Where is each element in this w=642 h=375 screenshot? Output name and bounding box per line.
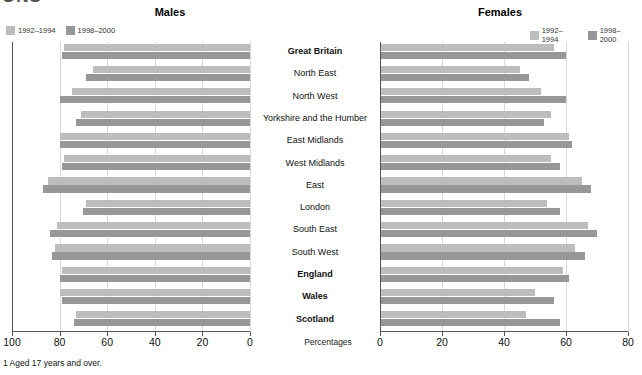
category-label: London bbox=[250, 202, 380, 213]
bar-series-b bbox=[83, 208, 250, 215]
bar-row bbox=[12, 287, 250, 309]
bar-series-b bbox=[380, 96, 566, 103]
legend-swatch-icon-b bbox=[588, 31, 597, 40]
bar-row bbox=[380, 87, 628, 109]
organisation-logo: ONS bbox=[2, 0, 64, 4]
logo-text: ONS bbox=[2, 0, 64, 4]
legend-entry-1992-1994-males: 1992–1994 bbox=[6, 26, 56, 35]
bar-series-a bbox=[380, 244, 575, 251]
bar-series-b bbox=[380, 252, 585, 259]
bar-series-a bbox=[48, 177, 250, 184]
tick-label: 80 bbox=[45, 336, 75, 348]
category-label-column: Great BritainNorth EastNorth WestYorkshi… bbox=[250, 42, 380, 332]
category-label: South East bbox=[250, 224, 380, 235]
legend-label-b: 1998–2000 bbox=[78, 26, 116, 35]
bar-series-b bbox=[60, 141, 250, 148]
category-label: West Midlands bbox=[250, 158, 380, 169]
bar-series-b bbox=[76, 119, 250, 126]
bar-series-a bbox=[62, 267, 250, 274]
tick-label: 80 bbox=[613, 336, 642, 348]
males-legend: 1992–1994 1998–2000 bbox=[6, 26, 121, 35]
tick-label: 0 bbox=[235, 336, 265, 348]
bar-series-a bbox=[55, 244, 250, 251]
bar-series-a bbox=[380, 311, 526, 318]
bar-series-a bbox=[380, 200, 547, 207]
bar-series-a bbox=[380, 289, 535, 296]
bar-row bbox=[380, 220, 628, 242]
tick-label: 40 bbox=[489, 336, 519, 348]
bar-row bbox=[12, 198, 250, 220]
category-label: North West bbox=[250, 91, 380, 102]
bar-series-b bbox=[380, 319, 560, 326]
category-label: Scotland bbox=[250, 314, 380, 325]
bar-series-a bbox=[76, 311, 250, 318]
bar-series-a bbox=[380, 44, 554, 51]
bar-series-b bbox=[62, 297, 250, 304]
bar-row bbox=[12, 87, 250, 109]
females-axis-left-edge bbox=[380, 42, 381, 332]
category-label: Great Britain bbox=[250, 46, 380, 57]
bar-series-b bbox=[60, 275, 250, 282]
bar-series-b bbox=[380, 208, 560, 215]
legend-entry-1998-2000-males: 1998–2000 bbox=[66, 26, 116, 35]
chart-page: ONS Males Females 1992–1994 1998–2000 19… bbox=[0, 0, 642, 375]
category-label: East Midlands bbox=[250, 135, 380, 146]
bar-row bbox=[12, 131, 250, 153]
bar-series-b bbox=[380, 74, 529, 81]
bar-series-b bbox=[60, 96, 250, 103]
bar-row bbox=[380, 154, 628, 176]
bar-row bbox=[380, 176, 628, 198]
tick-label: 20 bbox=[427, 336, 457, 348]
bar-series-a bbox=[64, 44, 250, 51]
bar-series-a bbox=[72, 88, 251, 95]
category-label: South West bbox=[250, 247, 380, 258]
bar-row bbox=[380, 310, 628, 332]
bar-series-a bbox=[60, 289, 250, 296]
tick-label: 60 bbox=[92, 336, 122, 348]
tick-label: 60 bbox=[551, 336, 581, 348]
males-axis-left-edge bbox=[12, 42, 13, 332]
bar-series-a bbox=[380, 222, 588, 229]
bar-series-a bbox=[380, 133, 569, 140]
bar-row bbox=[380, 198, 628, 220]
category-label: North East bbox=[250, 68, 380, 79]
bar-series-a bbox=[380, 111, 551, 118]
tick-label: 100 bbox=[0, 336, 27, 348]
bar-series-b bbox=[380, 163, 560, 170]
category-label: Yorkshire and the Humber bbox=[250, 113, 380, 124]
bar-series-b bbox=[380, 185, 591, 192]
males-bar-rows bbox=[12, 42, 250, 332]
bar-series-a bbox=[81, 111, 250, 118]
females-panel-title: Females bbox=[440, 6, 560, 18]
bar-series-b bbox=[380, 141, 572, 148]
bar-series-a bbox=[86, 200, 250, 207]
gridline bbox=[628, 42, 629, 332]
bar-series-b bbox=[380, 297, 554, 304]
bar-series-a bbox=[380, 66, 520, 73]
footnote: 1 Aged 17 years and over. bbox=[3, 358, 102, 368]
bar-series-a bbox=[380, 267, 563, 274]
bar-row bbox=[380, 64, 628, 86]
bar-row bbox=[12, 310, 250, 332]
bar-row bbox=[12, 265, 250, 287]
legend-swatch-icon-b bbox=[66, 26, 75, 35]
males-tick-labels: 100806040200 bbox=[0, 336, 262, 350]
axis-caption: Percentages bbox=[283, 337, 373, 347]
bar-series-b bbox=[380, 119, 544, 126]
tick-label: 40 bbox=[140, 336, 170, 348]
bar-row bbox=[12, 42, 250, 64]
bar-series-a bbox=[60, 133, 250, 140]
bar-series-b bbox=[50, 230, 250, 237]
bar-series-a bbox=[380, 88, 541, 95]
tick-label: 20 bbox=[187, 336, 217, 348]
category-label: Wales bbox=[250, 291, 380, 302]
legend-swatch-icon-a bbox=[530, 31, 539, 40]
category-label: England bbox=[250, 269, 380, 280]
bar-row bbox=[12, 220, 250, 242]
bar-series-a bbox=[64, 155, 250, 162]
bar-row bbox=[12, 176, 250, 198]
category-label: East bbox=[250, 180, 380, 191]
bar-series-b bbox=[43, 185, 250, 192]
bar-row bbox=[380, 265, 628, 287]
bar-row bbox=[12, 64, 250, 86]
